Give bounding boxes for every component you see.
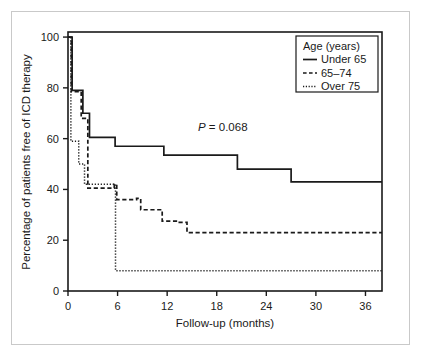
- legend-entry-label: Over 75: [321, 80, 360, 92]
- y-axis-ticks: 020406080100: [41, 31, 68, 297]
- y-tick-label: 40: [47, 183, 59, 195]
- y-tick-label: 60: [47, 133, 59, 145]
- x-tick-label: 12: [161, 300, 173, 312]
- legend-entry-label: Under 65: [321, 53, 366, 65]
- y-tick-label: 20: [47, 234, 59, 246]
- x-axis-title: Follow-up (months): [176, 317, 275, 329]
- x-tick-label: 6: [115, 300, 121, 312]
- p-value-annotation: P = 0.068: [198, 121, 248, 133]
- kaplan-meier-chart: 020406080100 061218243036 P = 0.068 Foll…: [0, 0, 422, 358]
- y-tick-label: 0: [53, 285, 59, 297]
- x-axis-ticks: 061218243036: [65, 291, 372, 312]
- x-tick-label: 18: [211, 300, 223, 312]
- legend-title: Age (years): [303, 40, 360, 52]
- x-tick-label: 24: [260, 300, 272, 312]
- x-tick-label: 30: [310, 300, 322, 312]
- y-tick-label: 100: [41, 31, 59, 43]
- y-tick-label: 80: [47, 82, 59, 94]
- y-axis-title: Percentage of patients free of ICD thera…: [20, 54, 32, 270]
- legend[interactable]: Age (years) Under 6565–74Over 75: [296, 36, 378, 92]
- legend-entry-label: 65–74: [321, 67, 352, 79]
- x-tick-label: 0: [65, 300, 71, 312]
- x-tick-label: 36: [359, 300, 371, 312]
- p-value: = 0.068: [206, 121, 248, 133]
- figure-root: 020406080100 061218243036 P = 0.068 Foll…: [0, 0, 422, 358]
